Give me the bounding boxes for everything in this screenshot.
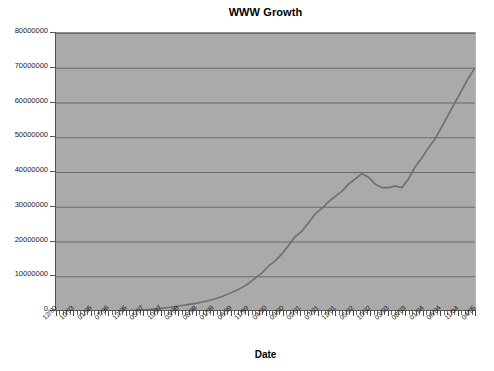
y-axis-tick-label: 20000000 [0,235,52,247]
y-axis-tick-label: 60000000 [0,96,52,108]
www-growth-chart: WWW Growth 01000000020000000300000004000… [0,0,494,371]
plot-svg [56,33,475,311]
y-axis-tick-label: 80000000 [0,26,52,38]
plot-area [56,32,476,311]
x-axis-title: Date [56,349,475,360]
y-axis-tick-label: 40000000 [0,165,52,177]
y-axis-tick-label: 30000000 [0,200,52,212]
y-axis-tick-label: 10000000 [0,269,52,281]
chart-title: WWW Growth [56,6,475,18]
y-axis-tick-labels: 0100000002000000030000000400000005000000… [0,32,52,310]
gridlines [56,34,475,277]
y-axis-tick-label: 50000000 [0,130,52,142]
series-line-www-sites [56,68,475,311]
y-axis-tick-label: 70000000 [0,61,52,73]
